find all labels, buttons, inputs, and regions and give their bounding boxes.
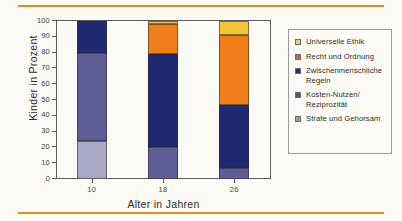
legend-swatch-icon bbox=[295, 116, 301, 122]
bar-segment[interactable] bbox=[219, 168, 249, 179]
legend-item-label: Recht und Ordnung bbox=[306, 52, 374, 61]
bar-segment[interactable] bbox=[148, 21, 178, 24]
decorative-rule-top bbox=[18, 5, 384, 7]
legend-item[interactable]: Kosten-Nutzen/ Reziprozität bbox=[295, 90, 386, 108]
legend-item-label: Kosten-Nutzen/ Reziprozität bbox=[306, 90, 386, 108]
x-tick-label: 10 bbox=[72, 185, 112, 194]
plot-right-border bbox=[270, 20, 271, 179]
bar-segment[interactable] bbox=[148, 24, 178, 54]
bar-segment[interactable] bbox=[77, 141, 107, 179]
bar-segment[interactable] bbox=[219, 105, 249, 168]
bar-segment[interactable] bbox=[77, 53, 107, 141]
bar-stack[interactable] bbox=[77, 21, 107, 178]
bar-segment[interactable] bbox=[148, 147, 178, 179]
x-tick bbox=[92, 179, 93, 183]
bar-segment[interactable] bbox=[219, 35, 249, 105]
y-tick-label: 10 bbox=[24, 158, 50, 167]
legend-swatch-icon bbox=[295, 39, 301, 45]
legend-item-label: Strafe und Gehorsam bbox=[306, 114, 381, 123]
legend-item[interactable]: Universelle Ethik bbox=[295, 37, 386, 46]
bar-stack[interactable] bbox=[148, 21, 178, 178]
legend-item[interactable]: Recht und Ordnung bbox=[295, 52, 386, 61]
legend-item[interactable]: Zwischenmenschliche Regeln bbox=[295, 66, 386, 84]
bar-segment[interactable] bbox=[77, 21, 107, 53]
plot-area bbox=[56, 21, 270, 178]
y-tick-label: 0 bbox=[24, 174, 50, 183]
bar-stack[interactable] bbox=[219, 21, 249, 178]
y-axis-label: Kinder in Prozent bbox=[27, 0, 39, 158]
x-axis-label: Alter in Jahren bbox=[56, 198, 271, 210]
legend-swatch-icon bbox=[295, 92, 301, 98]
legend-swatch-icon bbox=[295, 54, 301, 60]
bar-segment[interactable] bbox=[148, 54, 178, 147]
legend-item-label: Zwischenmenschliche Regeln bbox=[306, 66, 386, 84]
y-tick bbox=[52, 178, 57, 179]
x-tick-label: 18 bbox=[143, 185, 183, 194]
bar-segment[interactable] bbox=[219, 21, 249, 35]
figure-canvas: 0102030405060708090100 101826 Kinder in … bbox=[0, 0, 402, 221]
decorative-rule-bottom bbox=[18, 212, 384, 214]
legend: Universelle EthikRecht und OrdnungZwisch… bbox=[288, 29, 392, 154]
x-tick-label: 26 bbox=[214, 185, 254, 194]
legend-swatch-icon bbox=[295, 68, 301, 74]
legend-item-label: Universelle Ethik bbox=[306, 37, 364, 46]
x-tick bbox=[163, 179, 164, 183]
legend-item[interactable]: Strafe und Gehorsam bbox=[295, 114, 386, 123]
x-tick bbox=[234, 179, 235, 183]
